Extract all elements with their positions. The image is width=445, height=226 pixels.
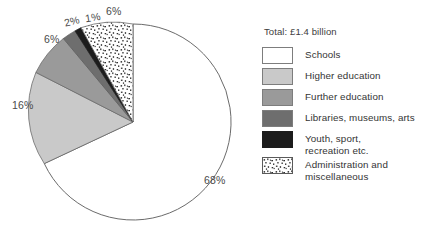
pie-label-schools: 68% <box>204 174 226 186</box>
legend-total-label: Total: £1.4 billion <box>264 26 445 37</box>
legend-label-libraries: Libraries, museums, arts <box>305 110 415 124</box>
pie-chart-figure: 68% 16% 6% 2% 1% 6% Total: £1.4 billion … <box>0 0 445 226</box>
pie-label-higher-education: 16% <box>12 99 34 111</box>
legend-swatch-further-education <box>262 89 293 106</box>
pie-plot-area: 68% 16% 6% 2% 1% 6% <box>0 0 258 226</box>
legend-item-administration: Administration and miscellaneous <box>262 157 445 182</box>
legend-swatch-libraries <box>262 110 293 127</box>
legend-swatch-administration <box>262 157 293 174</box>
chart-legend: Total: £1.4 billion Schools Higher educa… <box>262 26 445 183</box>
legend-label-higher-education: Higher education <box>305 68 381 82</box>
pie-label-further-education: 6% <box>44 33 60 45</box>
legend-label-further-education: Further education <box>305 89 384 103</box>
legend-item-higher-education: Higher education <box>262 68 445 85</box>
legend-swatch-schools <box>262 47 293 64</box>
pie-svg <box>0 0 258 226</box>
legend-swatch-higher-education <box>262 68 293 85</box>
legend-label-schools: Schools <box>305 47 341 61</box>
legend-item-youth-sport: Youth, sport, recreation etc. <box>262 131 445 156</box>
legend-item-libraries: Libraries, museums, arts <box>262 110 445 127</box>
legend-label-administration: Administration and miscellaneous <box>305 157 388 182</box>
pie-label-administration: 6% <box>106 5 122 17</box>
pie-label-youth-sport: 1% <box>84 10 101 24</box>
legend-label-youth-sport: Youth, sport, recreation etc. <box>305 131 369 156</box>
legend-swatch-youth-sport <box>262 131 293 148</box>
legend-item-schools: Schools <box>262 47 445 64</box>
legend-item-further-education: Further education <box>262 89 445 106</box>
